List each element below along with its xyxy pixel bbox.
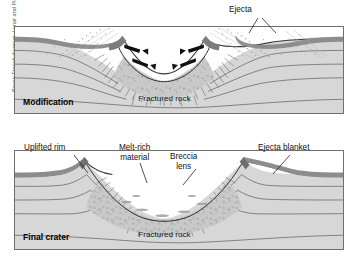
rim-drape-right (202, 36, 220, 51)
stage-label-final-crater: Final crater (23, 232, 69, 242)
stage-label-modification: Modification (23, 97, 74, 107)
collapse-arrow-left-upper-head (142, 49, 148, 55)
melt-rich-material-label: Melt-rich material (119, 143, 150, 163)
fractured-rock-label-bottom: Fractured rock (138, 230, 191, 239)
melt-rich-line2: material (120, 153, 149, 162)
breccia-lens-label: Breccia lens (170, 152, 197, 172)
collapse-arrow-right-lower (180, 58, 196, 67)
melt-rich-line1: Melt-rich (119, 143, 150, 152)
collapse-arrow-right-upper-head (180, 49, 186, 55)
fractured-rock-label-top: Fractured rock (138, 94, 191, 103)
collapse-arrow-right-lower-head (172, 64, 178, 70)
panel-modification: Fractured rock Modification (14, 26, 344, 114)
ejecta-blanket-label: Ejecta blanket (258, 143, 309, 153)
collapse-arrow-left-lower (132, 58, 148, 67)
collapse-arrow-left-lower-head (150, 64, 156, 70)
breccia-line2: lens (176, 162, 191, 171)
ejecta-label: Ejecta (229, 5, 252, 15)
uplifted-rim-label: Uplifted rim (24, 143, 65, 153)
crater-formation-diagram: Bevan French diagram, Lunar and Planetar… (0, 0, 351, 260)
breccia-line1: Breccia (170, 152, 197, 161)
